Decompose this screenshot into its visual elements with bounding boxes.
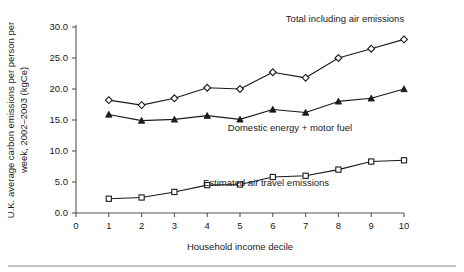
data-point-marker — [204, 84, 211, 91]
data-point-marker — [401, 36, 408, 43]
data-point-marker — [401, 158, 406, 163]
data-point-marker — [302, 74, 309, 81]
data-point-marker — [237, 86, 244, 93]
series-annotation-1: Total including air emissions — [286, 13, 405, 24]
x-tick-label: 2 — [139, 220, 144, 231]
x-tick-label: 9 — [369, 220, 374, 231]
x-tick-label: 1 — [106, 220, 111, 231]
y-axis-label-line-2: week, 2002–2003 (kgCe) — [18, 67, 29, 174]
x-tick-label: 5 — [237, 220, 242, 231]
x-tick-label: 3 — [172, 220, 177, 231]
series-line — [109, 39, 404, 105]
y-axis-ticks: 0.05.010.015.020.025.030.0 — [50, 21, 77, 218]
data-point-marker — [368, 45, 375, 52]
data-point-marker — [105, 97, 112, 104]
x-axis-title: Household income decile — [187, 241, 293, 252]
series-line — [109, 89, 404, 121]
data-point-marker — [139, 195, 144, 200]
x-tick-label: 7 — [303, 220, 308, 231]
y-tick-label: 10.0 — [50, 145, 69, 156]
y-tick-label: 20.0 — [50, 83, 69, 94]
series-2 — [106, 86, 408, 124]
data-point-marker — [335, 55, 342, 62]
x-axis-ticks: 012345678910 — [73, 213, 409, 231]
data-point-marker — [106, 111, 112, 117]
y-tick-label: 15.0 — [50, 114, 69, 125]
data-point-marker — [336, 167, 341, 172]
x-tick-label: 0 — [73, 220, 78, 231]
x-tick-label: 4 — [205, 220, 210, 231]
y-tick-label: 5.0 — [55, 176, 68, 187]
series-annotation-2: Domestic energy + motor fuel — [228, 122, 352, 133]
y-tick-label: 30.0 — [50, 21, 69, 32]
data-point-marker — [172, 189, 177, 194]
data-point-marker — [269, 69, 276, 76]
x-tick-label: 10 — [399, 220, 410, 231]
y-axis-label: U.K. average carbon emissions per person… — [5, 22, 29, 218]
y-tick-label: 0.0 — [55, 207, 68, 218]
data-point-marker — [369, 159, 374, 164]
chart-figure: U.K. average carbon emissions per person… — [0, 0, 464, 272]
data-point-marker — [171, 95, 178, 102]
series-annotation-3: Estimated air travel emissions — [203, 177, 329, 188]
x-tick-label: 6 — [270, 220, 275, 231]
data-point-marker — [106, 196, 111, 201]
data-point-marker — [138, 102, 145, 109]
series-1 — [105, 36, 407, 109]
data-point-marker — [401, 86, 407, 92]
y-axis-label-line-1: U.K. average carbon emissions per person… — [5, 22, 16, 218]
y-tick-label: 25.0 — [50, 52, 69, 63]
line-chart-canvas: U.K. average carbon emissions per person… — [0, 0, 464, 272]
x-tick-label: 8 — [336, 220, 341, 231]
